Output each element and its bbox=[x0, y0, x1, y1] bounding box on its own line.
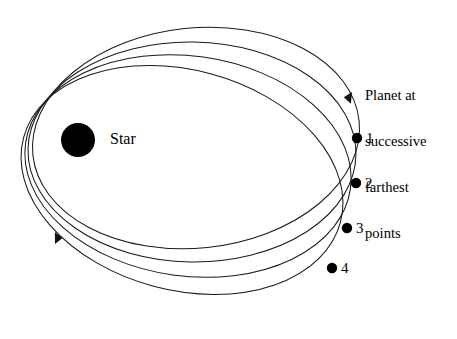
planet-dot-3 bbox=[342, 223, 352, 233]
caption-line-1: Planet at bbox=[365, 88, 427, 103]
planet-marker-group bbox=[327, 133, 362, 273]
caption-line-4: points bbox=[365, 226, 427, 241]
orbit-3 bbox=[10, 34, 365, 298]
arrow-bottom-left bbox=[51, 232, 64, 246]
planet-dot-1 bbox=[352, 133, 362, 143]
star-label: Star bbox=[110, 131, 136, 147]
orbital-precession-figure: Star Planet at successive farthest point… bbox=[0, 0, 457, 339]
orbit-ellipse-group bbox=[0, 11, 371, 328]
orbit-4 bbox=[0, 31, 369, 328]
planet-dot-2 bbox=[351, 178, 361, 188]
planet-point-label-1: 1 bbox=[366, 130, 374, 147]
caption-line-2: successive bbox=[365, 134, 427, 149]
planet-point-label-2: 2 bbox=[365, 175, 373, 192]
star-icon bbox=[61, 123, 95, 157]
planet-dot-4 bbox=[327, 263, 337, 273]
caption-line-3: farthest bbox=[365, 180, 427, 195]
planet-point-label-3: 3 bbox=[356, 220, 364, 237]
planet-point-label-4: 4 bbox=[341, 260, 349, 277]
direction-arrow-group bbox=[51, 90, 356, 246]
caption-planet-farthest-points: Planet at successive farthest points bbox=[365, 57, 427, 273]
star-group bbox=[61, 123, 95, 157]
